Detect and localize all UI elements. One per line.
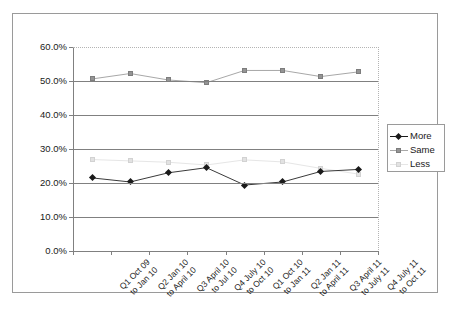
x-tick-label: Q4 July 10to Oct 10 [232,257,276,301]
y-tick-label: 50.0% [17,76,67,86]
data-point-less-4 [242,157,247,162]
x-tick-label: Q3 April 11to July 11 [347,257,391,301]
data-point-same-1 [128,71,133,76]
legend-item-less: Less [388,157,444,171]
legend-label-same: Same [410,144,435,156]
y-tick-mark [69,149,73,150]
legend-label-more: More [410,130,432,142]
x-tick-label: Q1 Oct 09to Jan 10 [117,257,159,299]
data-point-same-5 [280,68,285,73]
data-point-same-6 [318,74,323,79]
chart-legend: More Same Less [387,124,445,172]
x-tick-mark [378,251,379,255]
y-tick-mark [69,183,73,184]
gridline-10.0% [73,217,378,218]
gridline-50.0% [73,81,378,82]
legend-item-more: More [388,129,444,143]
y-tick-label: 40.0% [17,110,67,120]
x-tick-mark [226,251,227,255]
data-point-less-0 [90,157,95,162]
gridline-40.0% [73,115,378,116]
y-tick-mark [69,47,73,48]
data-point-less-2 [166,160,171,165]
x-tick-label: Q2 Jan 11to April 11 [308,257,350,299]
x-tick-label: Q1 Oct 10to Jan 11 [270,257,312,299]
y-tick-label: 0.0% [17,246,67,256]
legend-swatch-more [388,130,410,142]
x-tick-mark [187,251,188,255]
x-tick-mark [302,251,303,255]
legend-label-less: Less [410,158,430,170]
legend-swatch-same [388,144,410,156]
y-tick-mark [69,217,73,218]
data-point-same-7 [356,69,361,74]
x-tick-label: Q4 July 11to Oct 11 [385,257,428,300]
data-point-same-4 [242,68,247,73]
legend-swatch-less [388,158,410,170]
x-tick-mark [149,251,150,255]
x-tick-label: Q2 Jan 10to April 10 [156,257,199,300]
chart-frame: More Same Less 0.0%10.0%20.0%30.0%40.0%5… [12,13,438,293]
data-point-less-5 [280,159,285,164]
y-tick-mark [69,81,73,82]
y-tick-mark [69,115,73,116]
x-tick-mark [340,251,341,255]
legend-item-same: Same [388,143,444,157]
y-tick-label: 10.0% [17,212,67,222]
plot-right-border [378,47,379,252]
x-tick-mark [111,251,112,255]
y-tick-label: 20.0% [17,178,67,188]
data-point-less-1 [128,158,133,163]
x-tick-mark [73,251,74,255]
gridline-30.0% [73,149,378,150]
x-tick-label: Q3 April 10to Jul 10 [195,257,240,302]
x-tick-mark [264,251,265,255]
gridline-20.0% [73,183,378,184]
y-tick-label: 60.0% [17,42,67,52]
y-tick-label: 30.0% [17,144,67,154]
